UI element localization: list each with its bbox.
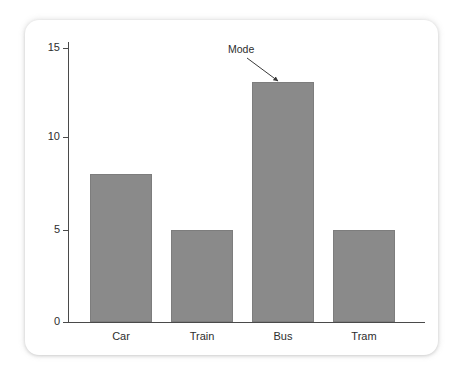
y-axis-line bbox=[68, 42, 69, 323]
y-tick-label-0: 0 bbox=[24, 316, 60, 327]
x-tick-label-bus: Bus bbox=[252, 330, 314, 343]
x-tick-label-train: Train bbox=[171, 330, 233, 343]
bar-bus[interactable] bbox=[252, 82, 314, 322]
y-tick-label-15-wrap: 15 bbox=[24, 42, 60, 54]
bar-chart-plot: 15 10 5 0 Car Train Bus Tram Mode bbox=[0, 0, 463, 376]
x-tick-label-tram: Tram bbox=[333, 330, 395, 343]
x-axis-line bbox=[68, 322, 425, 323]
bar-tram[interactable] bbox=[333, 230, 395, 322]
y-tick-label-10-wrap: 10 bbox=[24, 131, 60, 143]
y-tick-label-10: 10 bbox=[24, 131, 60, 142]
mode-annotation-label: Mode bbox=[228, 43, 254, 55]
y-tick-mark-5 bbox=[63, 230, 69, 231]
y-tick-label-5-wrap: 5 bbox=[24, 224, 60, 236]
bar-car[interactable] bbox=[90, 174, 152, 322]
y-tick-mark-10 bbox=[63, 137, 69, 138]
y-tick-label-0-wrap: 0 bbox=[24, 316, 60, 328]
chart-screenshot: 15 10 5 0 Car Train Bus Tram Mode bbox=[0, 0, 463, 376]
y-tick-mark-15 bbox=[63, 48, 69, 49]
y-tick-label-5: 5 bbox=[24, 224, 60, 235]
y-tick-label-15: 15 bbox=[24, 42, 60, 53]
y-tick-mark-0 bbox=[63, 322, 69, 323]
x-tick-label-car: Car bbox=[90, 330, 152, 343]
bar-train[interactable] bbox=[171, 230, 233, 322]
